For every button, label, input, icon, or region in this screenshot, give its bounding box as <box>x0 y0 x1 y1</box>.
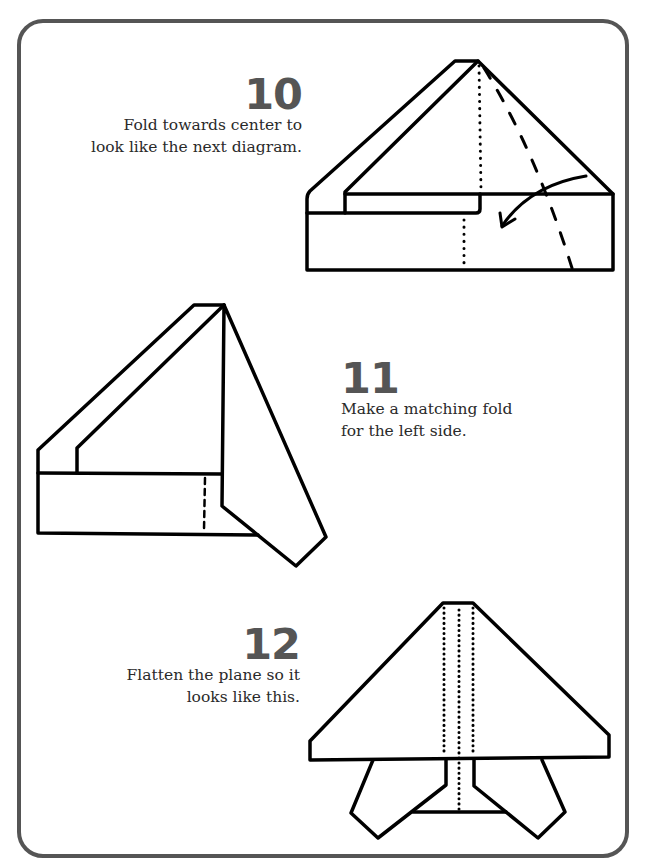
diagram-step-11 <box>38 305 326 566</box>
diagram-step-12 <box>310 603 609 838</box>
dashed-line-icon <box>204 478 205 530</box>
dashed-fold-line-icon <box>484 68 572 268</box>
fold-diagrams <box>0 0 651 868</box>
dotted-center-line-icon <box>479 66 481 192</box>
diagram-step-10 <box>307 61 613 270</box>
